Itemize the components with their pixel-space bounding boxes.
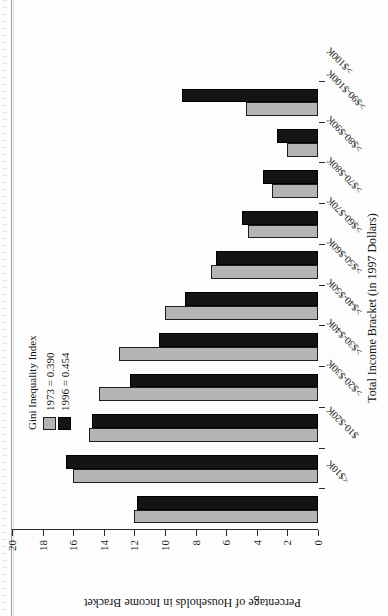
- value-axis-tick: [104, 530, 105, 536]
- bar-group: [12, 211, 318, 239]
- bar-group: [12, 496, 318, 524]
- value-axis-tick-label: 10: [159, 540, 171, 551]
- category-axis-tick: [319, 122, 325, 123]
- value-axis-tick: [165, 530, 166, 536]
- bar-group: [12, 374, 318, 402]
- bar: [211, 265, 318, 279]
- bar: [99, 387, 318, 401]
- value-axis-tick-label: 8: [190, 540, 202, 546]
- bar-group: [12, 89, 318, 117]
- bar: [277, 129, 318, 143]
- value-axis-tick: [287, 530, 288, 536]
- bar-group: [12, 455, 318, 483]
- value-axis-tick: [134, 530, 135, 536]
- category-axis-tick: [319, 448, 325, 449]
- bar-group: [12, 251, 318, 279]
- value-axis-tick: [318, 530, 319, 536]
- bar: [159, 333, 318, 347]
- bar-group: [12, 129, 318, 157]
- bar: [130, 374, 318, 388]
- category-axis-title: Total Income Bracket (in 1997 Dollars): [365, 8, 380, 608]
- value-axis-tick: [12, 530, 13, 536]
- bar: [246, 102, 318, 116]
- bar: [165, 306, 318, 320]
- bar: [216, 251, 319, 265]
- category-axis-label: >$50-$60K: [324, 236, 364, 276]
- category-axis-tick: [319, 203, 325, 204]
- value-axis-tick: [73, 530, 74, 536]
- category-axis-tick: [319, 285, 325, 286]
- value-axis-tick: [196, 530, 197, 536]
- category-axis-label: >$80-$90K: [324, 114, 364, 154]
- value-axis-tick-label: 18: [37, 540, 49, 551]
- category-axis-tick: [319, 81, 325, 82]
- rotated-figure-container: Gini Inequality Index 1973 = 0.390 1996 …: [4, 8, 384, 608]
- bar: [89, 428, 319, 442]
- bar-group: [12, 414, 318, 442]
- figure-page: Gini Inequality Index 1973 = 0.390 1996 …: [0, 0, 388, 616]
- bar: [242, 211, 319, 225]
- value-axis-tick-label: 4: [251, 540, 263, 546]
- value-axis-tick: [257, 530, 258, 536]
- category-axis-label: >$20-$30K: [324, 358, 364, 398]
- bar-chart: Gini Inequality Index 1973 = 0.390 1996 …: [4, 8, 384, 608]
- category-axis-label: >$60-$70K: [324, 195, 364, 235]
- category-axis-label: <$10K: [324, 458, 351, 485]
- bar-group: [12, 170, 318, 198]
- category-axis-label: >$70-$80K: [324, 155, 364, 195]
- bar-group: [12, 292, 318, 320]
- bar: [73, 469, 318, 483]
- category-axis-tick: [319, 407, 325, 408]
- value-axis-tick: [226, 530, 227, 536]
- bar: [92, 414, 318, 428]
- category-axis-tick: [319, 488, 325, 489]
- value-axis-tick-label: 0: [312, 540, 324, 546]
- value-axis-tick-label: 14: [98, 540, 110, 551]
- bar: [137, 496, 318, 510]
- value-axis-tick-label: 2: [281, 540, 293, 546]
- category-axis-tick: [319, 366, 325, 367]
- category-axis-tick: [319, 325, 325, 326]
- value-axis-tick-label: 16: [67, 540, 79, 551]
- value-axis-tick-label: 12: [128, 540, 140, 551]
- bar: [287, 143, 318, 157]
- category-axis-tick: [319, 244, 325, 245]
- bar: [272, 184, 318, 198]
- bar: [185, 292, 318, 306]
- value-axis-tick-label: 20: [6, 540, 18, 551]
- bar: [263, 170, 318, 184]
- bar: [134, 510, 318, 524]
- category-axis-label: >$30-$40K: [324, 317, 364, 357]
- value-axis-tick-label: 6: [220, 540, 232, 546]
- bar: [248, 225, 318, 239]
- bar-group: [12, 333, 318, 361]
- value-axis-title: Percentage of Households in Income Brack…: [43, 595, 343, 610]
- bar: [119, 347, 318, 361]
- category-axis-tick: [319, 162, 325, 163]
- bar: [182, 89, 318, 103]
- value-axis-tick: [43, 530, 44, 536]
- category-axis-label: >$40-$50K: [324, 277, 364, 317]
- category-axis-label: $10-$20K: [324, 405, 360, 441]
- bar: [66, 455, 318, 469]
